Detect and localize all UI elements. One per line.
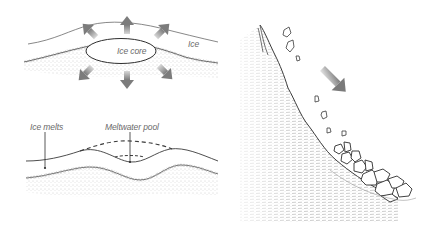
label-ice: Ice bbox=[188, 39, 199, 49]
rockfall-slope-diagram bbox=[220, 0, 438, 228]
ice-core-diagram bbox=[0, 0, 220, 105]
sediment-layer bbox=[26, 165, 218, 196]
arrow-up-icon bbox=[120, 16, 134, 34]
label-meltwater-pool: Meltwater pool bbox=[105, 122, 159, 132]
label-ice-core: Ice core bbox=[117, 46, 146, 56]
label-ice-melts: Ice melts bbox=[30, 122, 63, 132]
arrow-up-left-icon bbox=[78, 19, 101, 42]
geomorphology-illustration: Ice core Ice Ice melts Meltwater pool bbox=[0, 0, 438, 228]
meltwater-pool-shape bbox=[115, 156, 144, 158]
meltwater-pool-diagram bbox=[0, 100, 220, 228]
